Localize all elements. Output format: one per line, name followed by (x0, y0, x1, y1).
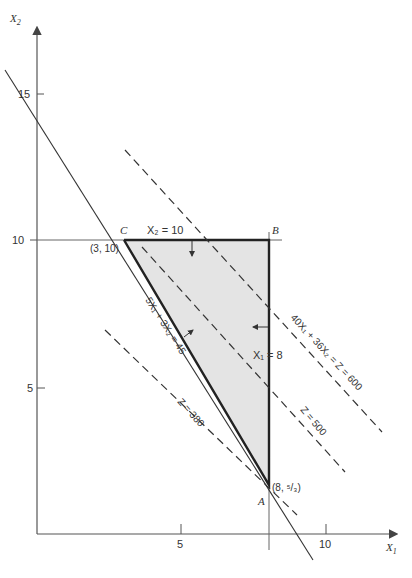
label-x1-eq-8: X₁ = 8 (253, 349, 283, 361)
vertex-c-label: C (120, 224, 128, 236)
label-objective-z380: Z = 380 (176, 396, 207, 429)
lp-diagram: X2 X1 15 10 5 5 10 C (3, 10) B A (8, ⁵/₃… (0, 0, 412, 578)
label-objective-z500: Z = 500 (298, 404, 329, 438)
label-x2-eq-10: X₂ = 10 (147, 224, 183, 236)
vertex-c-coord: (3, 10) (90, 243, 119, 254)
vertex-a-coord: (8, ⁵/₃) (272, 482, 301, 493)
x-tick-label-10: 10 (319, 538, 331, 550)
y-tick-label-10: 10 (12, 234, 24, 246)
x2-axis-label: X2 (9, 12, 21, 27)
x-tick-label-5: 5 (177, 538, 183, 550)
x1-axis-label: X1 (385, 541, 397, 556)
vertex-b-label: B (272, 224, 279, 236)
label-objective-z600: 40X₁ + 36X₂ = Z = 600 (289, 312, 365, 393)
y-tick-label-5: 5 (27, 382, 33, 394)
vertex-a-label: A (257, 495, 265, 507)
